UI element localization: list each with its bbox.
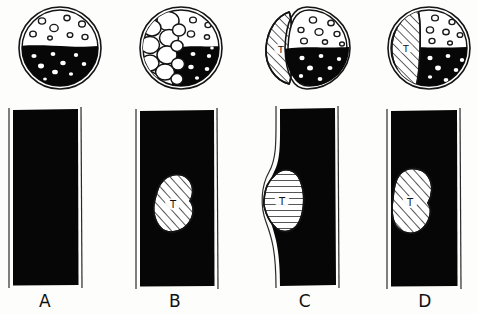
tumor-label-cross-c: T (277, 44, 284, 55)
cross-section-d: T (380, 4, 478, 94)
wall-line-right-a (81, 107, 82, 288)
wall-line-right-b (217, 108, 218, 289)
panel-a: A (0, 0, 119, 314)
cross-section-c: T (255, 4, 359, 94)
tumor-label-d: T (406, 197, 414, 208)
panel-d: T (378, 0, 478, 314)
tumor-label-cross-d: T (402, 43, 409, 54)
panel-label-c: C (260, 291, 350, 311)
panel-c: T (250, 0, 376, 314)
longitudinal-c: T (252, 102, 364, 294)
tumor-mass-cross-d: T (392, 10, 420, 86)
wall-line-right-d (460, 108, 461, 289)
figure-root: A (0, 0, 478, 314)
tumor-label-c: T (278, 196, 286, 207)
longitudinal-a (6, 104, 90, 292)
longitudinal-d: T (382, 104, 474, 294)
tumor-mass-c: T (264, 170, 304, 232)
panel-label-b: B (130, 291, 220, 311)
panel-label-a: A (0, 291, 90, 311)
panel-b: T B (122, 0, 248, 314)
wall-line-right-c (338, 106, 339, 288)
tumor-mass-d: T (392, 169, 432, 234)
tumor-label-b: T (169, 199, 177, 210)
cross-section-a (12, 4, 108, 94)
large-bubbles-b (141, 12, 186, 87)
panel-label-d: D (380, 291, 470, 311)
lumen-fill-a (13, 109, 79, 286)
longitudinal-b: T (132, 104, 228, 294)
cross-section-b (131, 4, 231, 94)
